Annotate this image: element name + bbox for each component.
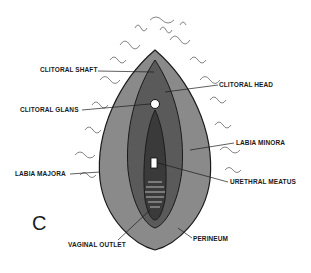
label-clitoral-head: CLITORAL HEAD — [219, 82, 273, 89]
label-labia-minora: LABIA MINORA — [236, 140, 285, 147]
label-labia-majora: LABIA MAJORA — [15, 171, 66, 178]
label-clitoral-glans: CLITORAL GLANS — [20, 107, 79, 114]
label-perineum: PERINEUM — [193, 236, 228, 243]
label-vaginal-outlet: VAGINAL OUTLET — [68, 242, 126, 249]
panel-letter: C — [32, 212, 46, 235]
anatomy-illustration — [0, 0, 311, 273]
label-clitoral-shaft: CLITORAL SHAFT — [40, 67, 98, 74]
clitoral-glans-shape — [151, 100, 160, 109]
label-urethral-meatus: URETHRAL MEATUS — [230, 179, 296, 186]
urethral-meatus-shape — [151, 158, 157, 168]
